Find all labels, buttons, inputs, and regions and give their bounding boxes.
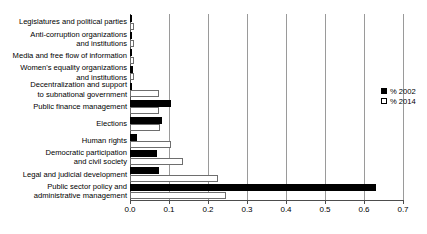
bar-2014 [130,73,134,80]
x-axis-tick [169,200,170,204]
bar-2002 [130,32,132,39]
category-label: Media and free flow of information [0,51,127,60]
legend-item-2014: % 2014 [381,96,416,106]
legend: % 2002 % 2014 [381,86,416,106]
bar-2002 [130,117,162,124]
x-axis-tick [208,200,209,204]
x-axis-tick-label: 0.2 [202,205,213,214]
category-label: Human rights [0,136,127,145]
legend-label-2014: % 2014 [390,97,416,106]
bar-2014 [130,175,218,182]
x-axis-tick [403,200,404,204]
bar-2002 [130,134,137,141]
bar-chart: 0.00.10.20.30.40.50.60.7 Legislatures an… [0,0,427,234]
bar-2002 [130,83,132,90]
gridline [247,14,248,200]
legend-swatch-filled-square [381,88,387,94]
category-label-line: Public finance management [0,102,127,111]
category-label-line: Public sector policy and [0,182,127,191]
plot-area [130,14,403,200]
bar-2014 [130,23,134,30]
category-label: Public finance management [0,102,127,111]
bar-2002 [130,15,132,22]
x-axis-tick-label: 0.0 [124,205,135,214]
legend-label-2002: % 2002 [390,87,416,96]
gridline [403,14,404,200]
x-axis-tick-label: 0.4 [280,205,291,214]
bar-2002 [130,150,157,157]
x-axis-line [130,200,403,201]
bar-2014 [130,124,160,131]
gridline [169,14,170,200]
bar-2014 [130,158,183,165]
bar-2002 [130,100,171,107]
category-label-line: and institutions [0,39,127,48]
category-label: Democratic participationand civil societ… [0,148,127,166]
x-axis-tick [286,200,287,204]
gridline [208,14,209,200]
x-axis-tick-label: 0.7 [397,205,408,214]
x-axis-tick [247,200,248,204]
category-label-line: to subnational government [0,90,127,99]
category-label: Legal and judicial development [0,170,127,179]
gridline [364,14,365,200]
category-label: Women's equality organizationsand instit… [0,63,127,81]
category-label-line: Democratic participation [0,148,127,157]
category-label-line: and civil society [0,157,127,166]
category-label: Elections [0,119,127,128]
category-label-line: Human rights [0,136,127,145]
bar-2002 [130,184,376,191]
legend-item-2002: % 2002 [381,86,416,96]
category-label-line: Decentralization and support [0,80,127,89]
bar-2014 [130,107,159,114]
legend-swatch-hollow-square [381,98,387,104]
bar-2014 [130,40,134,47]
x-axis-tick [364,200,365,204]
x-axis-tick [325,200,326,204]
category-label-line: Elections [0,119,127,128]
x-axis-tick [130,200,131,204]
gridline [286,14,287,200]
bar-2014 [130,141,171,148]
category-label: Legislatures and political parties [0,17,127,26]
x-axis-tick-label: 0.5 [319,205,330,214]
category-label-line: Legal and judicial development [0,170,127,179]
category-label: Decentralization and supportto subnation… [0,80,127,98]
category-label: Public sector policy andadministrative m… [0,182,127,200]
bar-2002 [130,167,159,174]
bar-2002 [130,49,132,56]
category-label-line: Legislatures and political parties [0,17,127,26]
category-label-line: Anti-corruption organizations [0,30,127,39]
bar-2014 [130,90,159,97]
category-label-line: Media and free flow of information [0,51,127,60]
bar-2014 [130,57,134,64]
x-axis-tick-label: 0.1 [163,205,174,214]
x-axis-tick-label: 0.6 [358,205,369,214]
bar-2014 [130,192,226,199]
category-label: Anti-corruption organizationsand institu… [0,30,127,48]
category-label-line: Women's equality organizations [0,63,127,72]
bar-2002 [130,66,133,73]
category-label-line: administrative management [0,191,127,200]
gridline [325,14,326,200]
x-axis-tick-label: 0.3 [241,205,252,214]
